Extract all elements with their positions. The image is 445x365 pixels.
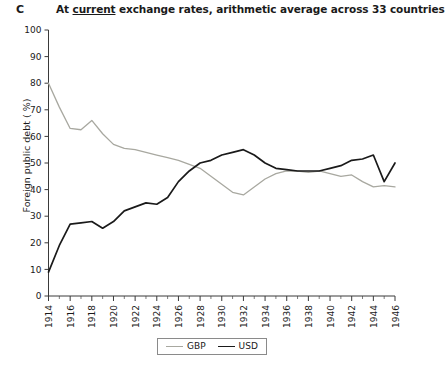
legend-swatch-usd	[218, 346, 235, 347]
x-tick-label: 1914	[44, 305, 54, 328]
x-tick-label: 1922	[131, 305, 141, 328]
chart-legend: GBP USD	[157, 338, 267, 355]
x-tick-label: 1942	[347, 305, 357, 328]
x-tick-label: 1924	[152, 305, 162, 328]
x-tick-label: 1930	[217, 305, 227, 328]
y-axis-ticks: 0102030405060708090100	[24, 25, 48, 301]
x-tick-label: 1940	[326, 305, 336, 328]
y-tick-label: 0	[36, 291, 42, 301]
x-axis-ticks: 1914191619181920192219241926192819301932…	[44, 296, 401, 328]
y-tick-label: 30	[30, 211, 42, 221]
x-tick-label: 1938	[304, 305, 314, 328]
y-tick-label: 90	[30, 52, 42, 62]
series-line-gbp	[49, 83, 396, 195]
x-tick-label: 1936	[282, 305, 292, 328]
x-tick-label: 1918	[87, 305, 97, 328]
x-tick-label: 1916	[66, 305, 76, 328]
legend-label-gbp: GBP	[187, 341, 206, 351]
data-series-group	[49, 83, 396, 272]
x-tick-label: 1920	[109, 305, 119, 328]
y-tick-label: 100	[24, 25, 41, 35]
y-tick-label: 50	[30, 158, 42, 168]
series-line-usd	[49, 150, 396, 272]
legend-swatch-gbp	[166, 346, 183, 347]
legend-item-gbp: GBP	[166, 341, 206, 351]
y-tick-label: 70	[30, 105, 42, 115]
y-tick-label: 60	[30, 132, 42, 142]
x-tick-label: 1932	[239, 305, 249, 328]
x-tick-label: 1928	[196, 305, 206, 328]
x-tick-label: 1934	[261, 305, 271, 328]
x-tick-label: 1926	[174, 305, 184, 328]
y-tick-label: 40	[30, 185, 42, 195]
y-tick-label: 80	[30, 78, 42, 88]
legend-label-usd: USD	[239, 341, 258, 351]
legend-item-usd: USD	[218, 341, 258, 351]
x-tick-label: 1946	[391, 305, 401, 328]
y-tick-label: 20	[30, 238, 42, 248]
x-tick-label: 1944	[369, 305, 379, 328]
y-tick-label: 10	[30, 265, 42, 275]
